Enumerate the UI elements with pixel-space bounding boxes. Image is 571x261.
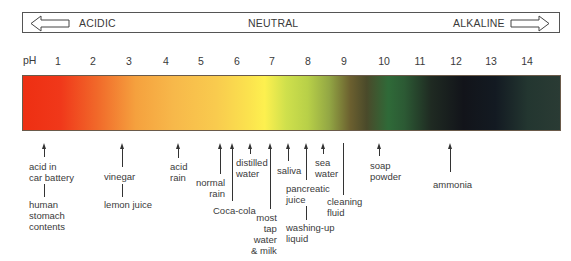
ph-axis-label: pH [23,54,36,66]
label-cleaning-fluid: cleaning fluid [327,196,362,218]
neutral-label: NEUTRAL [248,17,298,29]
pointer-line [288,148,289,161]
ph-tick-14: 14 [521,55,533,67]
label-saliva: saliva [277,165,301,176]
ph-tick-13: 13 [485,55,497,67]
label-washing-up-liquid: washing-up liquid [286,222,335,244]
label-sea-water: sea water [315,157,338,179]
label-soap-powder: soap powder [370,160,401,182]
pointer-line [122,148,123,167]
ph-tick-3: 3 [126,55,132,67]
pointer-line [306,148,307,180]
ph-tick-7: 7 [269,55,275,67]
pointer-line [122,184,123,197]
acidic-label: ACIDIC [79,17,116,29]
ph-tick-1: 1 [55,55,61,67]
pointer-line [270,148,271,209]
arrow-right-outline-icon [510,15,550,32]
ph-tick-8: 8 [305,55,311,67]
pointer-line [343,143,344,195]
ph-color-bar [22,75,561,131]
ph-tick-6: 6 [234,55,240,67]
label-lemon-juice: lemon juice [104,199,152,210]
label-pancreatic-juice: pancreatic juice [286,183,330,205]
ph-tick-5: 5 [198,55,204,67]
ph-tick-9: 9 [341,55,347,67]
pointer-line [323,148,324,154]
ph-tick-4: 4 [163,55,169,67]
pointer-line [44,184,45,197]
label-acid-car-battery: acid in car battery [29,161,74,183]
pointer-line [450,148,451,172]
pointer-line [232,148,233,201]
ph-tick-12: 12 [450,55,462,67]
pointer-line [306,206,307,220]
label-ammonia: ammonia [433,179,472,190]
label-coca-cola: Coca-cola [213,205,256,216]
label-human-stomach: human stomach contents [29,199,65,232]
label-normal-rain: normal rain [196,177,225,199]
ph-tick-2: 2 [90,55,96,67]
ph-tick-11: 11 [415,55,426,67]
alkaline-label: ALKALINE [453,17,505,29]
pointer-line [379,148,380,156]
arrow-left-outline-icon [30,15,70,32]
label-vinegar: vinegar [104,171,135,182]
label-acid-rain: acid rain [170,161,187,183]
pointer-line [250,148,251,154]
pointer-line [178,148,179,158]
pointer-line [44,148,45,157]
ph-tick-10: 10 [378,55,390,67]
pointer-line [220,148,221,174]
label-distilled-water: distilled water [236,157,268,179]
label-tap-water-milk: most tap water & milk [251,212,277,256]
